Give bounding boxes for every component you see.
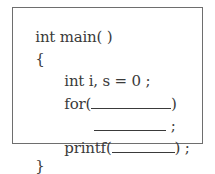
code-line-close-brace: } xyxy=(17,139,45,152)
code-text: { xyxy=(35,50,44,68)
fill-in-blank-printf-args[interactable] xyxy=(112,138,175,152)
code-line-printf: printf() ; xyxy=(46,120,190,152)
code-snippet-box: int main( ) { int i, s = 0 ; for() ; pri… xyxy=(12,7,203,144)
code-line-open-brace: { xyxy=(17,32,45,86)
code-suffix: ) ; xyxy=(175,139,190,152)
code-text: int main( ) xyxy=(35,28,112,46)
code-prefix: printf( xyxy=(64,139,111,152)
